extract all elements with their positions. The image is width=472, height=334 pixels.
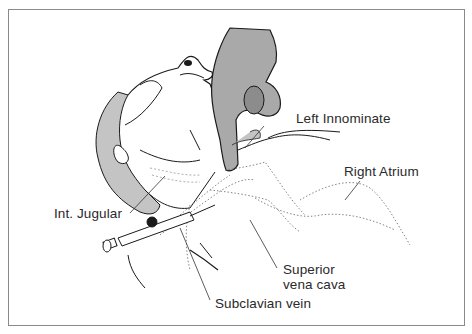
label-superior-vena-cava-2: vena cava: [283, 277, 345, 292]
label-right-atrium: Right Atrium: [344, 164, 419, 179]
label-int-jugular: Int. Jugular: [54, 206, 122, 221]
label-left-innominate: Left Innominate: [296, 111, 391, 126]
label-subclavian-vein: Subclavian vein: [215, 296, 311, 311]
hair-shape: [96, 92, 160, 214]
label-superior-vena-cava-1: Superior: [283, 262, 335, 277]
